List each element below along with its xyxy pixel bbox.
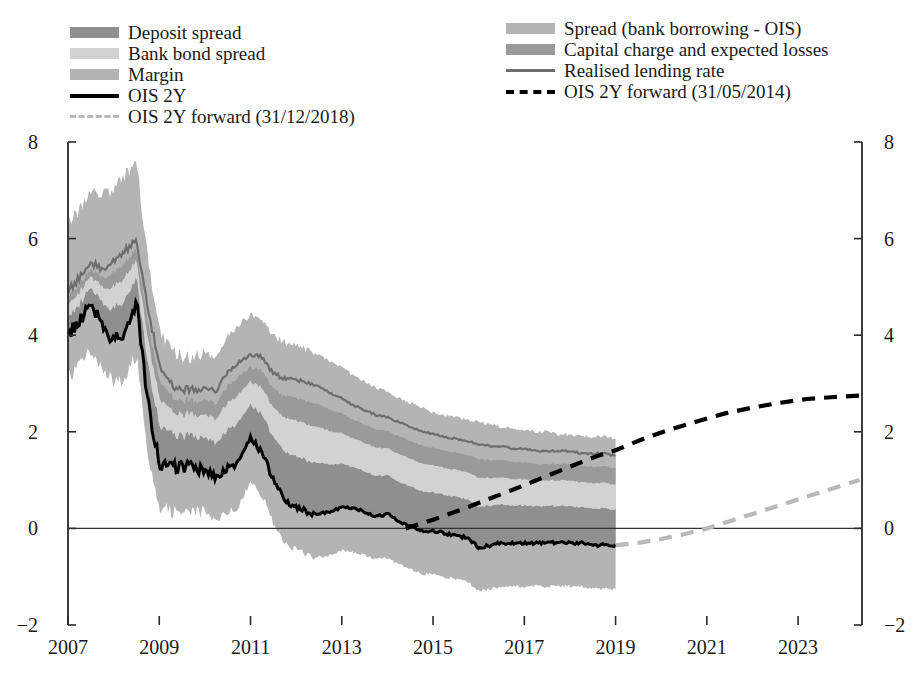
y-axis-label-right: −2 — [884, 615, 905, 635]
x-axis-label: 2009 — [139, 637, 179, 657]
y-axis-label-right: 6 — [884, 229, 894, 249]
line-ois-2y-forward-2018 — [616, 480, 860, 545]
y-axis-label-left: 8 — [28, 132, 38, 152]
x-axis-label: 2017 — [504, 637, 544, 657]
x-axis-label: 2011 — [231, 637, 270, 657]
x-axis-label: 2013 — [322, 637, 362, 657]
x-axis-label: 2021 — [687, 637, 727, 657]
y-axis-label-right: 4 — [884, 325, 894, 345]
y-axis-label-left: 4 — [28, 325, 38, 345]
y-axis-label-right: 0 — [884, 518, 894, 538]
y-axis-label-right: 8 — [884, 132, 894, 152]
plot-area — [0, 0, 917, 684]
y-axis-label-left: 6 — [28, 229, 38, 249]
y-axis-label-left: 0 — [28, 518, 38, 538]
chart-container: Deposit spread Bank bond spread Margin O… — [0, 0, 917, 684]
x-axis-label: 2015 — [413, 637, 453, 657]
y-axis-label-right: 2 — [884, 422, 894, 442]
x-axis-label: 2007 — [48, 637, 88, 657]
y-axis-label-left: 2 — [28, 422, 38, 442]
y-axis-label-left: −2 — [17, 615, 38, 635]
x-axis-label: 2019 — [596, 637, 636, 657]
x-axis-label: 2023 — [778, 637, 818, 657]
